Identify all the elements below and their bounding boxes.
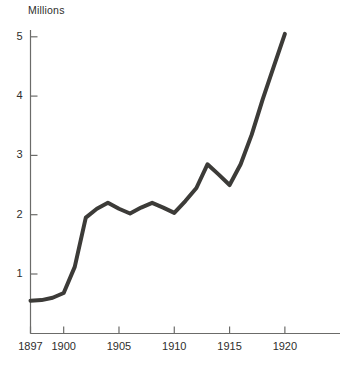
y-tick-label-5: 5 — [7, 30, 23, 42]
line-chart-plot — [0, 0, 348, 366]
x-tick-label-1900: 1900 — [44, 340, 84, 352]
x-tick-label-1905: 1905 — [99, 340, 139, 352]
x-tick-label-1915: 1915 — [210, 340, 250, 352]
y-tick-label-1: 1 — [7, 267, 23, 279]
y-tick-label-3: 3 — [7, 148, 23, 160]
y-tick-label-4: 4 — [7, 89, 23, 101]
x-tick-label-1920: 1920 — [265, 340, 305, 352]
x-tick-label-1910: 1910 — [154, 340, 194, 352]
chart-container: Millions 12345 189719001905191019151920 — [0, 0, 348, 366]
y-tick-label-2: 2 — [7, 208, 23, 220]
data-series-line — [31, 34, 285, 301]
